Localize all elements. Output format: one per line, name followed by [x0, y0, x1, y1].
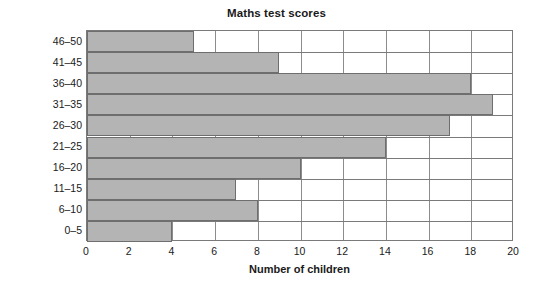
- bar-row: [87, 115, 514, 136]
- x-tick-label-14: 14: [365, 244, 405, 258]
- y-tick-label-26-30: 26–30: [20, 119, 82, 131]
- bar-31-35: [87, 94, 493, 115]
- bar-11-15: [87, 179, 236, 200]
- y-tick-label-16-20: 16–20: [20, 161, 82, 173]
- bar-6-10: [87, 200, 258, 221]
- x-tick-label-18: 18: [450, 244, 490, 258]
- plot-area: [86, 30, 513, 241]
- chart-title: Maths test scores: [0, 7, 553, 19]
- bar-row: [87, 221, 514, 242]
- bar-row: [87, 200, 514, 221]
- bar-36-40: [87, 73, 471, 94]
- x-tick-label-16: 16: [408, 244, 448, 258]
- bar-row: [87, 137, 514, 158]
- bar-16-20: [87, 158, 301, 179]
- y-tick-label-46-50: 46–50: [20, 35, 82, 47]
- x-tick-label-20: 20: [493, 244, 533, 258]
- y-tick-label-21-25: 21–25: [20, 140, 82, 152]
- bar-row: [87, 94, 514, 115]
- bar-46-50: [87, 31, 194, 52]
- maths-test-scores-bar-chart: Maths test scores Number of correct answ…: [0, 0, 553, 285]
- x-tick-label-6: 6: [194, 244, 234, 258]
- bar-row: [87, 158, 514, 179]
- x-axis-title: Number of children: [86, 263, 513, 275]
- x-tick-label-12: 12: [322, 244, 362, 258]
- bar-row: [87, 52, 514, 73]
- bar-row: [87, 179, 514, 200]
- bar-row: [87, 73, 514, 94]
- y-tick-label-6-10: 6–10: [20, 203, 82, 215]
- x-tick-label-0: 0: [66, 244, 106, 258]
- x-axis-tick-labels: 02468101214161820: [86, 244, 513, 260]
- y-tick-label-0-5: 0–5: [20, 224, 82, 236]
- x-tick-label-4: 4: [151, 244, 191, 258]
- bar-26-30: [87, 115, 450, 136]
- y-axis-tick-labels: 0–56–1011–1516–2021–2526–3031–3536–4041–…: [16, 30, 82, 241]
- x-tick-label-10: 10: [280, 244, 320, 258]
- x-tick-label-2: 2: [109, 244, 149, 258]
- bar-0-5: [87, 221, 172, 242]
- bar-41-45: [87, 52, 279, 73]
- y-tick-label-41-45: 41–45: [20, 56, 82, 68]
- bar-21-25: [87, 137, 386, 158]
- y-tick-label-36-40: 36–40: [20, 77, 82, 89]
- x-tick-label-8: 8: [237, 244, 277, 258]
- bar-row: [87, 31, 514, 52]
- y-tick-label-31-35: 31–35: [20, 98, 82, 110]
- y-tick-label-11-15: 11–15: [20, 182, 82, 194]
